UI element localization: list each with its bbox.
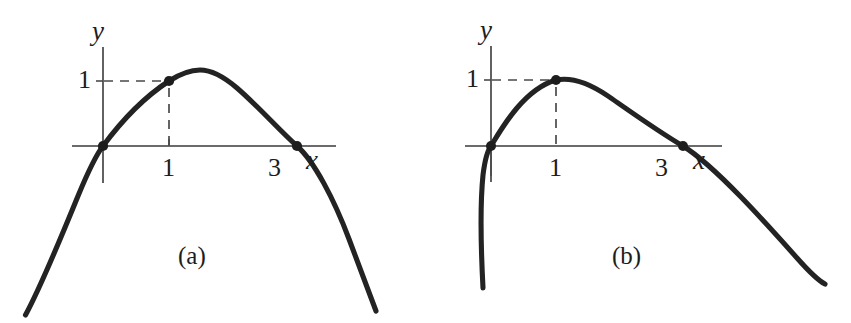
panel-b-y-axis-label: y [480,17,492,44]
panel-b-curve [481,79,825,288]
figure-container: y x 1 1 3 (a) y [0,0,851,323]
panel-b-point-origin [486,141,496,151]
panel-b-point-1-1 [551,75,561,85]
panel-b-y-tick-label-1: 1 [466,66,479,92]
panel-b: y x 1 1 3 (b) [425,0,851,323]
panel-a-caption: (a) [178,243,206,268]
panel-b-x-axis-label: x [693,147,705,174]
panel-a-x-tick-label-3: 3 [268,155,281,181]
panel-a-curve [26,70,377,315]
panel-a-point-1-1 [164,76,174,86]
panel-b-x-tick-label-1: 1 [549,155,562,181]
panel-b-point-3-0 [678,141,688,151]
panel-b-caption: (b) [612,243,641,268]
panel-b-x-tick-label-3: 3 [655,155,668,181]
panel-a-plot [0,0,426,323]
panel-a-y-tick-label-1: 1 [78,67,91,93]
panel-a-y-axis-label: y [92,18,104,45]
panel-b-plot [425,0,851,323]
panel-a: y x 1 1 3 (a) [0,0,426,323]
panel-a-point-origin [98,141,108,151]
panel-a-point-3-0 [292,141,302,151]
panel-a-x-tick-label-1: 1 [162,155,175,181]
panel-a-x-axis-label: x [306,147,318,174]
